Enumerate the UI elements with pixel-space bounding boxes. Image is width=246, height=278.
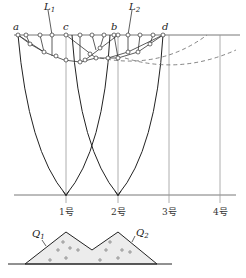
line-label-l1: L1 bbox=[44, 2, 55, 14]
point-label-b: b bbox=[111, 22, 117, 32]
pile-label-q1: Q1 bbox=[32, 229, 45, 241]
point-label-a: a bbox=[13, 22, 19, 32]
diagram-canvas: a c b d L1 L2 1号 2号 3号 4号 Q1 Q2 bbox=[0, 0, 246, 278]
point-label-d: d bbox=[162, 22, 168, 32]
station-label-3: 3号 bbox=[162, 208, 177, 217]
pile-label-q2: Q2 bbox=[136, 228, 149, 240]
point-label-c: c bbox=[63, 22, 69, 32]
station-label-2: 2号 bbox=[111, 208, 126, 217]
line-label-l2: L2 bbox=[129, 2, 140, 14]
station-label-4: 4号 bbox=[213, 208, 228, 217]
dashed-curves bbox=[100, 35, 236, 65]
station-label-1: 1号 bbox=[59, 208, 74, 217]
